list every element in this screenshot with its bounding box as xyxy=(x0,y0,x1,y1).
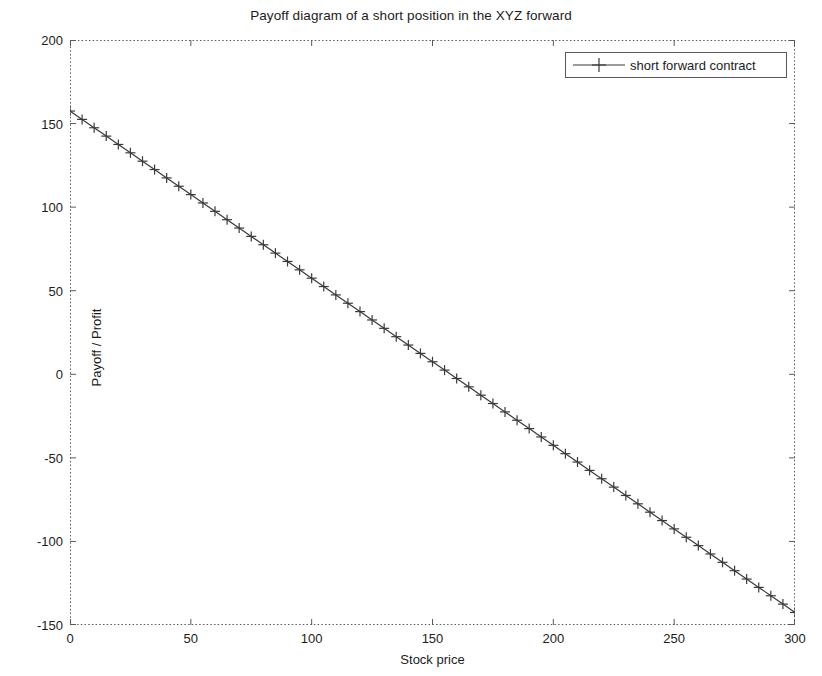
x-tick-label: 0 xyxy=(40,631,100,646)
y-tick-label: 150 xyxy=(15,116,63,131)
x-tick-label: 50 xyxy=(161,631,221,646)
page-title: Payoff diagram of a short position in th… xyxy=(0,8,822,23)
figure-canvas: Payoff diagram of a short position in th… xyxy=(0,0,822,676)
x-tick-label: 100 xyxy=(282,631,342,646)
x-axis-tick-labels: 050100150200250300 xyxy=(70,631,795,651)
y-tick-label: 50 xyxy=(15,283,63,298)
y-tick-label: -50 xyxy=(15,450,63,465)
x-axis-label: Stock price xyxy=(70,652,795,667)
x-tick-label: 150 xyxy=(403,631,463,646)
legend-line-marker-icon xyxy=(570,55,628,75)
plot-area: Payoff / Profit xyxy=(70,40,795,625)
y-tick-label: 200 xyxy=(15,33,63,48)
y-tick-label: -100 xyxy=(15,534,63,549)
x-tick-label: 300 xyxy=(765,631,822,646)
y-tick-label: 100 xyxy=(15,200,63,215)
legend-item-label: short forward contract xyxy=(630,58,756,73)
x-tick-label: 200 xyxy=(523,631,583,646)
y-tick-label: 0 xyxy=(15,367,63,382)
y-axis-label: Payoff / Profit xyxy=(89,278,104,418)
plot-svg xyxy=(70,40,795,625)
x-tick-label: 250 xyxy=(644,631,704,646)
y-axis-tick-labels: -150-100-50050100150200 xyxy=(8,40,63,625)
legend[interactable]: short forward contract xyxy=(565,52,787,78)
